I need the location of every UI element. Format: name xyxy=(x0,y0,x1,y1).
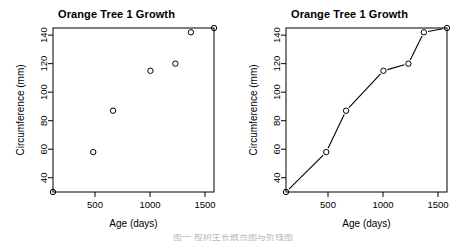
x-axis-tick-label: 1500 xyxy=(194,199,215,210)
x-axis-tick-label: 1000 xyxy=(372,199,393,210)
y-axis-tick-label: 40 xyxy=(39,172,50,183)
x-axis-tick-label: 1500 xyxy=(427,199,448,210)
data-line-segment xyxy=(410,36,422,60)
data-point xyxy=(173,61,178,66)
data-point xyxy=(381,68,386,73)
y-axis-tick-label: 80 xyxy=(272,115,283,126)
y-axis-tick-label: 120 xyxy=(39,56,50,72)
plot-panel-right: Orange Tree 1 Growth 4060801001201405001… xyxy=(233,0,466,232)
y-axis-tick-label: 100 xyxy=(272,84,283,100)
x-axis-label: Age (days) xyxy=(109,218,157,229)
data-point xyxy=(110,108,115,113)
y-axis-tick-label: 80 xyxy=(39,115,50,126)
x-axis-tick-label: 500 xyxy=(320,199,336,210)
figure-caption-strip: 图一 橙树生长散点图与折线图 xyxy=(0,234,466,248)
scatter-plot-left: 40608010012014050010001500Age (days)Circ… xyxy=(0,0,233,232)
data-line-segment xyxy=(387,65,404,70)
y-axis-label: Circumference (mm) xyxy=(15,64,26,155)
figure-canvas: Orange Tree 1 Growth 4060801001201405001… xyxy=(0,0,466,248)
plot-panel-left: Orange Tree 1 Growth 4060801001201405001… xyxy=(0,0,233,232)
y-axis-tick-label: 60 xyxy=(39,144,50,155)
x-axis-tick-label: 500 xyxy=(87,199,103,210)
x-axis-tick-label: 1000 xyxy=(139,199,160,210)
figure-caption: 图一 橙树生长散点图与折线图 xyxy=(0,234,466,243)
data-point xyxy=(324,149,329,154)
data-point xyxy=(421,30,426,35)
y-axis-tick-label: 140 xyxy=(272,27,283,43)
data-point xyxy=(91,149,96,154)
y-axis-tick-label: 40 xyxy=(272,172,283,183)
y-axis-tick-label: 120 xyxy=(272,56,283,72)
y-axis-tick-label: 140 xyxy=(39,27,50,43)
data-line-segment xyxy=(349,74,381,108)
line-plot-right: 40608010012014050010001500Age (days)Circ… xyxy=(233,0,466,232)
data-point xyxy=(148,68,153,73)
plot-box xyxy=(53,28,214,192)
data-line-segment xyxy=(328,115,344,149)
data-point xyxy=(188,30,193,35)
data-point xyxy=(406,61,411,66)
y-axis-tick-label: 100 xyxy=(39,84,50,100)
data-point xyxy=(343,108,348,113)
x-axis-label: Age (days) xyxy=(342,218,390,229)
y-axis-label: Circumference (mm) xyxy=(248,64,259,155)
data-line-segment xyxy=(289,155,323,189)
y-axis-tick-label: 60 xyxy=(272,144,283,155)
data-line-segment xyxy=(428,29,443,32)
